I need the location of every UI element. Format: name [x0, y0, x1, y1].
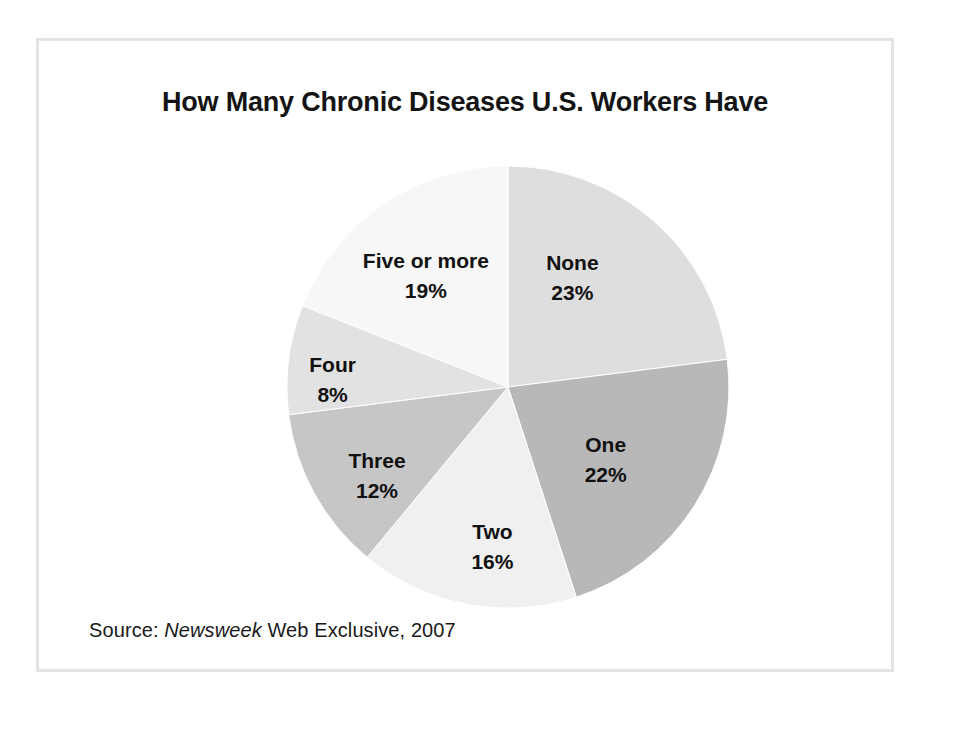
- pie-slice-label-five-or-more: Five or more 19%: [363, 246, 489, 306]
- pie-slice-label-four: Four 8%: [309, 351, 356, 411]
- source-note: Source: Newsweek Web Exclusive, 2007: [89, 619, 456, 642]
- pie-slice-label-one-name: One: [585, 430, 627, 460]
- pie-slice-label-three-name: Three: [348, 446, 405, 476]
- pie-slice-label-five-or-more-name: Five or more: [363, 246, 489, 276]
- pie-slice-label-none: None 23%: [546, 248, 599, 308]
- source-suffix: Web Exclusive, 2007: [267, 619, 455, 641]
- pie-slice-label-four-name: Four: [309, 351, 356, 381]
- pie-slice-label-three-value: 12%: [348, 476, 405, 506]
- pie-slice-label-one: One 22%: [585, 430, 627, 490]
- chart-title: How Many Chronic Diseases U.S. Workers H…: [39, 87, 891, 118]
- pie-slice-label-four-value: 8%: [309, 380, 356, 410]
- pie-slice-label-five-or-more-value: 19%: [363, 276, 489, 306]
- pie-slice-label-none-value: 23%: [546, 278, 599, 308]
- pie-slice-label-two-value: 16%: [471, 547, 513, 577]
- pie-chart: None 23% One 22% Two 16% Three 12% Four …: [286, 165, 730, 609]
- source-publication: Newsweek: [164, 619, 262, 641]
- pie-slice-label-one-value: 22%: [585, 460, 627, 490]
- source-prefix: Source:: [89, 619, 159, 641]
- figure-frame: How Many Chronic Diseases U.S. Workers H…: [36, 38, 894, 672]
- pie-slice-label-two: Two 16%: [471, 517, 513, 577]
- pie-slice-label-two-name: Two: [471, 517, 513, 547]
- pie-slice-label-none-name: None: [546, 248, 599, 278]
- pie-slice-none: [508, 166, 727, 387]
- pie-slice-label-three: Three 12%: [348, 446, 405, 506]
